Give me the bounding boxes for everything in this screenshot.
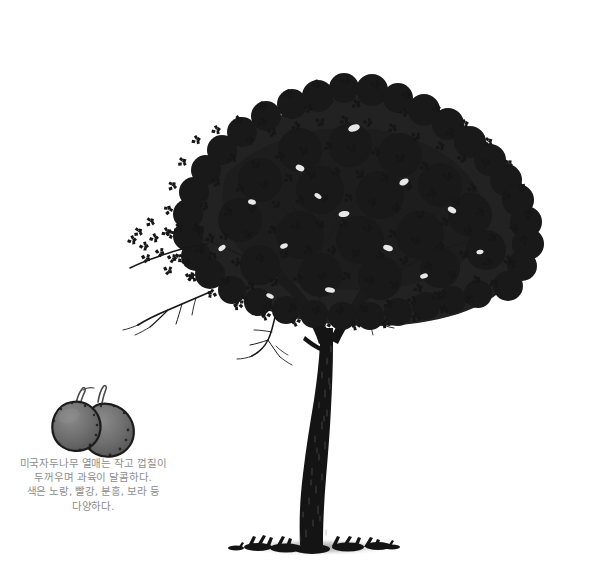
plum-fruit-pair	[52, 386, 134, 457]
caption-line-2: 두꺼우며 과육이 달콤하다.	[10, 470, 176, 484]
fruit-caption: 미국자두나무 열매는 작고 껍질이 두꺼우며 과육이 달콤하다. 색은 노랑, …	[10, 456, 176, 513]
caption-line-1: 미국자두나무 열매는 작고 껍질이	[10, 456, 176, 470]
caption-line-3: 색은 노랑, 빨강, 분홍, 보라 등	[10, 484, 176, 498]
illustration-page: 미국자두나무 열매는 작고 껍질이 두꺼우며 과육이 달콤하다. 색은 노랑, …	[0, 0, 604, 586]
caption-line-4: 다양하다.	[10, 499, 176, 513]
